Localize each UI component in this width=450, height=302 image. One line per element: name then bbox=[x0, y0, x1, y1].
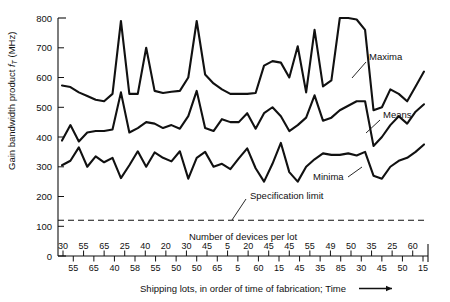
x-tick-label-lower: 50 bbox=[171, 263, 181, 273]
specification-limit-label: Specification limit bbox=[250, 190, 324, 201]
x-tick-label-lower: 50 bbox=[397, 263, 407, 273]
x-tick-label-lower: 60 bbox=[253, 263, 263, 273]
x-tick-label-upper: 55 bbox=[79, 241, 89, 251]
series-group bbox=[62, 18, 424, 182]
y-tick-100: 100 bbox=[36, 221, 52, 232]
y-tick-400: 400 bbox=[36, 132, 52, 143]
x-tick-label-upper: 20 bbox=[243, 241, 253, 251]
x-tick-label-upper: 49 bbox=[325, 241, 335, 251]
x-tick-label-upper: 5 bbox=[225, 241, 230, 251]
y-axis-label: Gain bandwidth product fT (MHz) bbox=[6, 32, 18, 170]
x-tick-label-lower: 15 bbox=[418, 263, 428, 273]
y-axis-label-text: Gain bandwidth product bbox=[6, 69, 17, 170]
x-tick-label-upper: 45 bbox=[284, 241, 294, 251]
x-tick-label-lower: 35 bbox=[315, 263, 325, 273]
x-tick-label-upper: 65 bbox=[99, 241, 109, 251]
x-tick-label-upper: 55 bbox=[305, 241, 315, 251]
y-tick-500: 500 bbox=[36, 102, 52, 113]
x-tick-label-upper: 60 bbox=[408, 241, 418, 251]
svg-text:Shipping lots, in order of tim: Shipping lots, in order of time of fabri… bbox=[140, 283, 346, 294]
y-tick-200: 200 bbox=[36, 191, 52, 202]
x-tick-label-upper: 20 bbox=[161, 241, 171, 251]
x-tick-label-lower: 85 bbox=[336, 263, 346, 273]
x-tick-label-upper: 50 bbox=[346, 241, 356, 251]
chart-svg: Gain bandwidth product fT (MHz) 800 700 … bbox=[0, 0, 450, 302]
x-tick-label-lower: 30 bbox=[356, 263, 366, 273]
x-tick-label-upper: 30 bbox=[58, 241, 68, 251]
y-tick-300: 300 bbox=[36, 161, 52, 172]
y-tick-700: 700 bbox=[36, 42, 52, 53]
maxima-leader bbox=[352, 62, 366, 78]
x-tick-label-lower: 65 bbox=[89, 263, 99, 273]
x-tick-label-lower: 45 bbox=[295, 263, 305, 273]
x-tick-labels-lower: 55654058555050655601545358530455015 bbox=[68, 263, 428, 273]
means-label: Means bbox=[383, 109, 412, 120]
x-tick-label-upper: 45 bbox=[202, 241, 212, 251]
x-tick-label-lower: 15 bbox=[274, 263, 284, 273]
x-tick-label-upper: 30 bbox=[181, 241, 191, 251]
x-tick-label-lower: 40 bbox=[109, 263, 119, 273]
chart-figure: Gain bandwidth product fT (MHz) 800 700 … bbox=[0, 0, 450, 302]
x-tick-labels-upper: 30556525402030455204545554950352560 bbox=[58, 241, 418, 251]
x-tick-label-upper: 35 bbox=[367, 241, 377, 251]
series-means bbox=[62, 91, 424, 146]
x-tick-label-lower: 50 bbox=[192, 263, 202, 273]
specification-limit-leader bbox=[232, 199, 246, 220]
y-tick-800: 800 bbox=[36, 13, 52, 24]
svg-text:Gain bandwidth product fT (MHz: Gain bandwidth product fT (MHz) bbox=[6, 32, 18, 170]
x-tick-label-upper: 25 bbox=[387, 241, 397, 251]
y-tick-0: 0 bbox=[47, 251, 52, 262]
x-tick-label-upper: 40 bbox=[140, 241, 150, 251]
x-tick-label-lower: 55 bbox=[151, 263, 161, 273]
minima-leader bbox=[348, 167, 362, 177]
x-axis-label-text: Shipping lots, in order of time of fabri… bbox=[140, 283, 346, 294]
series-minima bbox=[62, 143, 424, 182]
x-tick-label-lower: 55 bbox=[68, 263, 78, 273]
y-axis-label-units: (MHz) bbox=[6, 32, 17, 58]
x-tick-label-lower: 45 bbox=[377, 263, 387, 273]
x-axis-label: Shipping lots, in order of time of fabri… bbox=[140, 283, 392, 294]
x-tick-label-lower: 65 bbox=[212, 263, 222, 273]
x-tick-label-upper: 45 bbox=[264, 241, 274, 251]
maxima-label: Maxima bbox=[369, 51, 403, 62]
y-tick-600: 600 bbox=[36, 72, 52, 83]
series-maxima bbox=[62, 18, 424, 110]
x-tick-label-upper: 25 bbox=[120, 241, 130, 251]
time-arrow-head bbox=[386, 286, 392, 292]
y-tick-labels: 800 700 600 500 400 300 200 100 0 bbox=[36, 13, 52, 262]
x-tick-label-lower: 5 bbox=[235, 263, 240, 273]
x-tick-label-lower: 58 bbox=[130, 263, 140, 273]
minima-label: Minima bbox=[313, 171, 344, 182]
